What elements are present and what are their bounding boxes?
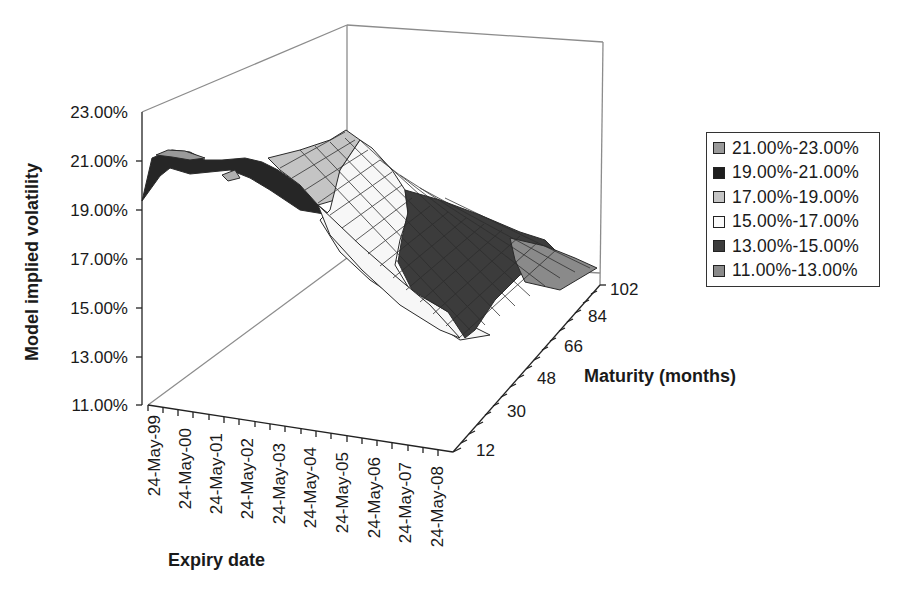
svg-text:84: 84 [588,307,607,326]
svg-text:15.00%: 15.00% [70,299,128,318]
legend-label: 11.00%-13.00% [732,260,858,281]
svg-text:24-May-01: 24-May-01 [207,433,226,514]
legend-item: 19.00%-21.00% [707,161,879,186]
svg-text:24-May-05: 24-May-05 [333,452,352,533]
svg-text:24-May-07: 24-May-07 [396,462,415,543]
svg-text:17.00%: 17.00% [70,250,128,269]
z-axis-tick-labels: 23.00% 21.00% 19.00% 17.00% 15.00% 13.00… [70,103,128,415]
svg-text:24-May-99: 24-May-99 [145,415,164,496]
legend-swatch [713,167,725,179]
legend-swatch [713,240,725,252]
svg-text:23.00%: 23.00% [70,103,128,122]
legend-label: 13.00%-15.00% [732,236,859,257]
volatility-surface-chart: 23.00% 21.00% 19.00% 17.00% 15.00% 13.00… [0,0,902,596]
legend-item: 15.00%-17.00% [707,210,879,235]
legend-swatch [713,265,725,277]
legend-swatch [713,142,725,154]
legend-item: 11.00%-13.00% [707,259,879,284]
svg-text:24-May-00: 24-May-00 [176,428,195,509]
svg-text:24-May-02: 24-May-02 [238,438,257,519]
legend-swatch [713,191,725,203]
legend-item: 13.00%-15.00% [707,234,879,259]
svg-text:102: 102 [610,280,638,299]
svg-text:24-May-06: 24-May-06 [365,457,384,538]
z-axis-title: Model implied volatility [22,163,42,361]
legend-label: 15.00%-17.00% [732,211,859,232]
legend-label: 19.00%-21.00% [732,162,859,183]
svg-text:30: 30 [507,402,526,421]
legend-item: 21.00%-23.00% [707,136,879,161]
volatility-surface [142,130,597,340]
svg-text:66: 66 [564,337,583,356]
svg-text:12: 12 [476,441,495,460]
y-axis-title: Maturity (months) [584,366,736,386]
legend-swatch [713,216,725,228]
x-axis-title: Expiry date [168,550,265,570]
svg-text:24-May-03: 24-May-03 [270,443,289,524]
z-axis [136,112,142,405]
legend-item: 17.00%-19.00% [707,185,879,210]
svg-text:19.00%: 19.00% [70,201,128,220]
svg-text:24-May-08: 24-May-08 [428,466,447,547]
svg-text:48: 48 [537,369,556,388]
svg-text:11.00%: 11.00% [72,396,128,415]
legend-label: 17.00%-19.00% [732,187,859,208]
legend-label: 21.00%-23.00% [732,138,859,159]
svg-text:24-May-04: 24-May-04 [301,447,320,528]
x-axis-tick-labels: 24-May-99 24-May-00 24-May-01 24-May-02 … [145,415,447,547]
svg-text:13.00%: 13.00% [70,348,128,367]
svg-text:21.00%: 21.00% [70,152,128,171]
chart-legend: 21.00%-23.00% 19.00%-21.00% 17.00%-19.00… [706,132,880,287]
